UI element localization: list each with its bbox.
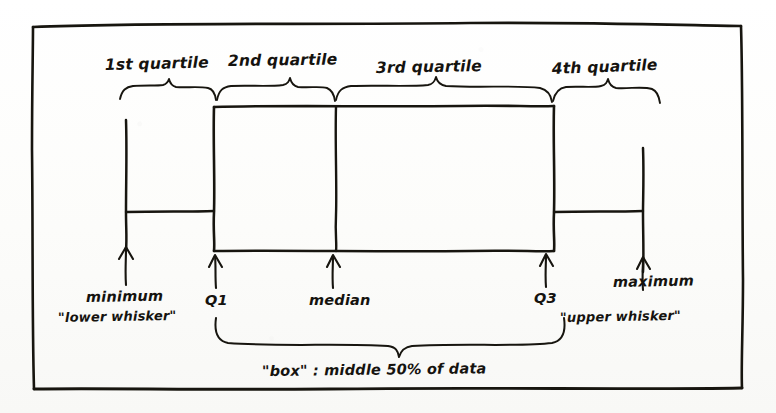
boxplot-diagram: 1st quartile 2nd quartile 3rd quartile 4…	[0, 0, 776, 413]
boxplot-glyph	[126, 106, 643, 272]
minimum-label: minimum	[86, 288, 164, 305]
q1-brace-label: 1st quartile	[105, 53, 209, 74]
q3-brace-label: 3rd quartile	[376, 57, 482, 77]
median-arrow-icon	[327, 255, 340, 288]
pointer-arrow-group	[119, 247, 650, 290]
q1-brace-path	[120, 79, 216, 100]
box-brace-label: "box" : middle 50% of data	[262, 360, 487, 379]
maximum-label: maximum	[613, 273, 694, 290]
box-right-edge	[554, 106, 555, 251]
hand-drawn-border	[32, 23, 743, 389]
minimum-arrow-icon	[119, 247, 133, 285]
q3-arrow-icon	[540, 254, 553, 287]
point-label-group: minimum "lower whisker" Q1 median Q3 max…	[58, 273, 694, 325]
lower-whisker-line	[126, 211, 214, 212]
box-top-edge	[214, 106, 554, 107]
box-left-edge	[214, 107, 215, 251]
box-brace-path	[216, 318, 565, 357]
quartile-brace-group: 1st quartile 2nd quartile 3rd quartile 4…	[105, 50, 660, 103]
q1-arrow-icon	[209, 255, 222, 288]
q3-brace-path	[336, 77, 552, 102]
lower-whisker-sublabel: "lower whisker"	[58, 308, 177, 325]
median-line	[336, 107, 337, 251]
q1-label: Q1	[205, 292, 228, 308]
upper-whisker-line	[554, 211, 643, 212]
q4-brace-path	[553, 79, 660, 103]
diagram-canvas: 1st quartile 2nd quartile 3rd quartile 4…	[0, 0, 776, 413]
q2-brace-path	[217, 78, 335, 101]
q2-brace-label: 2nd quartile	[228, 50, 338, 70]
box-bottom-edge	[214, 251, 554, 252]
median-label: median	[309, 292, 371, 308]
q3-label: Q3	[534, 290, 557, 306]
q4-brace-label: 4th quartile	[550, 56, 657, 78]
upper-whisker-sublabel: "upper whisker"	[560, 308, 681, 325]
box-brace-group: "box" : middle 50% of data	[216, 318, 565, 379]
